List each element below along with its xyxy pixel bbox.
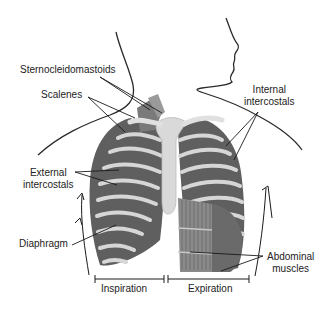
label-scalenes: Scalenes — [41, 89, 82, 101]
phase-bracket — [95, 275, 249, 283]
label-external-intercostals: External intercostals — [23, 167, 74, 191]
label-sternocleidomastoids: Sternocleidomastoids — [20, 64, 116, 76]
label-expiration: Expiration — [188, 283, 232, 295]
abdominal-muscle-rectus — [178, 198, 212, 272]
label-internal-intercostals-line2: intercostals — [244, 96, 295, 108]
label-external-intercostals-line1: External — [23, 167, 74, 179]
label-external-intercostals-line2: intercostals — [23, 179, 74, 191]
label-abdominal-muscles: Abdominal muscles — [267, 251, 314, 275]
label-internal-intercostals-line1: Internal — [244, 84, 295, 96]
label-abdominal-muscles-line2: muscles — [267, 263, 314, 275]
expansion-arrow-left — [75, 193, 89, 275]
label-internal-intercostals: Internal intercostals — [244, 84, 295, 108]
label-diaphragm: Diaphragm — [19, 238, 68, 250]
label-abdominal-muscles-line1: Abdominal — [267, 251, 314, 263]
label-inspiration: Inspiration — [101, 283, 147, 295]
